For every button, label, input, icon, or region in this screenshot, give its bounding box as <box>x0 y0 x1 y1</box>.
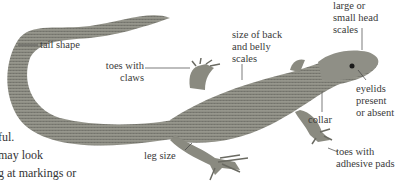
lizard-eye <box>350 64 355 69</box>
label-leg-size: leg size <box>144 150 176 162</box>
label-toes-with-pads: toes with adhesive pads <box>336 146 395 170</box>
label-head-scales: large or small head scales <box>333 0 378 36</box>
label-size-of-scales: size of back and belly scales <box>232 29 282 65</box>
label-eyelids: eyelids present or absent <box>356 83 394 119</box>
label-tail-shape: tail shape <box>40 39 80 51</box>
front-leg-left <box>189 64 214 90</box>
lizard-head <box>318 50 378 80</box>
lizard-tail <box>7 15 185 145</box>
label-collar: collar <box>308 114 332 126</box>
label-toes-with-claws: toes with claws <box>100 60 144 84</box>
body-text-fragment: ful. may look g at markings or <box>0 128 76 182</box>
